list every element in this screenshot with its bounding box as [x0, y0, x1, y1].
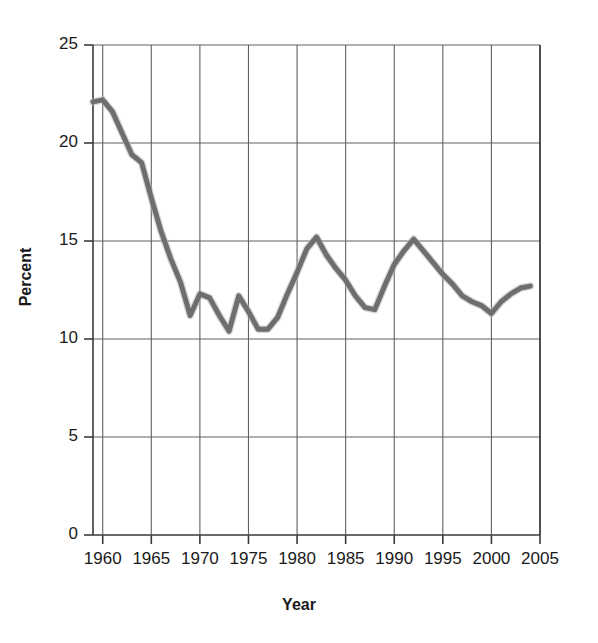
line-chart-plot: [0, 0, 598, 643]
grid-lines: [93, 45, 540, 535]
y-tick-label: 25: [32, 34, 78, 54]
chart-container: Percent Year 0510152025 1960196519701975…: [0, 0, 598, 643]
data-series-line: [93, 100, 530, 331]
y-tick-label: 15: [32, 230, 78, 250]
x-tick-label: 2005: [510, 549, 570, 569]
y-tick-label: 0: [32, 524, 78, 544]
axis-tick-marks: [84, 45, 540, 544]
y-tick-label: 20: [32, 132, 78, 152]
y-tick-label: 5: [32, 426, 78, 446]
y-tick-label: 10: [32, 328, 78, 348]
